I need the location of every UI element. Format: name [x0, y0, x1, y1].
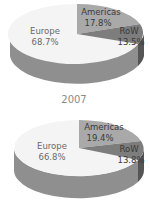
label-europe-bottom: Europe — [37, 141, 67, 151]
pie-chart-top: Europe 68.7% Americas 17.8% RoW 13.5% — [8, 4, 145, 84]
label-row-top: RoW — [119, 26, 139, 36]
pie-chart-bottom: Europe 66.8% Americas 19.4% RoW 13.8% — [14, 120, 145, 198]
value-row-bottom: 13.8% — [117, 155, 144, 165]
year-label: 2007 — [61, 94, 86, 105]
value-row-top: 13.5% — [117, 37, 144, 47]
value-americas-top: 17.8% — [84, 18, 111, 28]
value-europe-top: 68.7% — [31, 37, 58, 47]
label-row-bottom: RoW — [119, 144, 139, 154]
value-americas-bottom: 19.4% — [86, 133, 113, 143]
value-europe-bottom: 66.8% — [38, 152, 65, 162]
label-americas-bottom: Americas — [84, 122, 124, 132]
label-americas-top: Americas — [81, 7, 121, 17]
label-europe-top: Europe — [30, 26, 60, 36]
pie-charts: Europe 68.7% Americas 17.8% RoW 13.5% 20… — [0, 0, 150, 206]
